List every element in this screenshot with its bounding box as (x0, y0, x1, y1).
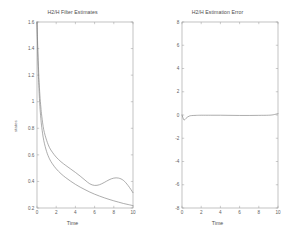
svg-text:1.6: 1.6 (28, 20, 35, 25)
svg-text:8: 8 (177, 20, 180, 25)
svg-text:6: 6 (238, 210, 241, 215)
svg-text:-8: -8 (175, 206, 180, 211)
svg-text:4: 4 (74, 210, 77, 215)
right-x-axis-label: Time (145, 220, 290, 226)
svg-text:4: 4 (219, 210, 222, 215)
left-x-axis-label: Time (0, 220, 145, 226)
svg-text:2: 2 (200, 210, 203, 215)
svg-text:6: 6 (177, 43, 180, 48)
svg-text:10: 10 (275, 210, 281, 215)
svg-text:0: 0 (177, 113, 180, 118)
svg-text:0.6: 0.6 (28, 153, 35, 158)
left-axes: 02468100.20.40.60.811.21.41.6 (0, 0, 145, 237)
svg-text:-6: -6 (175, 182, 180, 187)
svg-text:4: 4 (177, 66, 180, 71)
svg-text:6: 6 (93, 210, 96, 215)
svg-text:8: 8 (113, 210, 116, 215)
svg-text:1.4: 1.4 (28, 46, 35, 51)
right-axes: 0246810-8-6-4-202468 (145, 0, 290, 237)
svg-text:0.4: 0.4 (28, 179, 35, 184)
figure-canvas: H2/H Filter Estimates 02468100.20.40.60.… (0, 0, 290, 237)
subplot-estimation-error: H2/H Estimation Error 0246810-8-6-4-2024… (145, 0, 290, 237)
svg-text:0.2: 0.2 (28, 206, 35, 211)
svg-text:-2: -2 (175, 136, 180, 141)
svg-text:2: 2 (177, 89, 180, 94)
subplot-filter-estimates: H2/H Filter Estimates 02468100.20.40.60.… (0, 0, 145, 237)
svg-text:2: 2 (55, 210, 58, 215)
svg-text:8: 8 (258, 210, 261, 215)
left-y-axis-label: states (13, 120, 18, 132)
svg-text:1.2: 1.2 (28, 73, 35, 78)
svg-text:0: 0 (36, 210, 39, 215)
svg-text:0.8: 0.8 (28, 126, 35, 131)
svg-text:1: 1 (32, 99, 35, 104)
svg-text:10: 10 (130, 210, 136, 215)
svg-text:-4: -4 (175, 159, 180, 164)
svg-text:0: 0 (181, 210, 184, 215)
